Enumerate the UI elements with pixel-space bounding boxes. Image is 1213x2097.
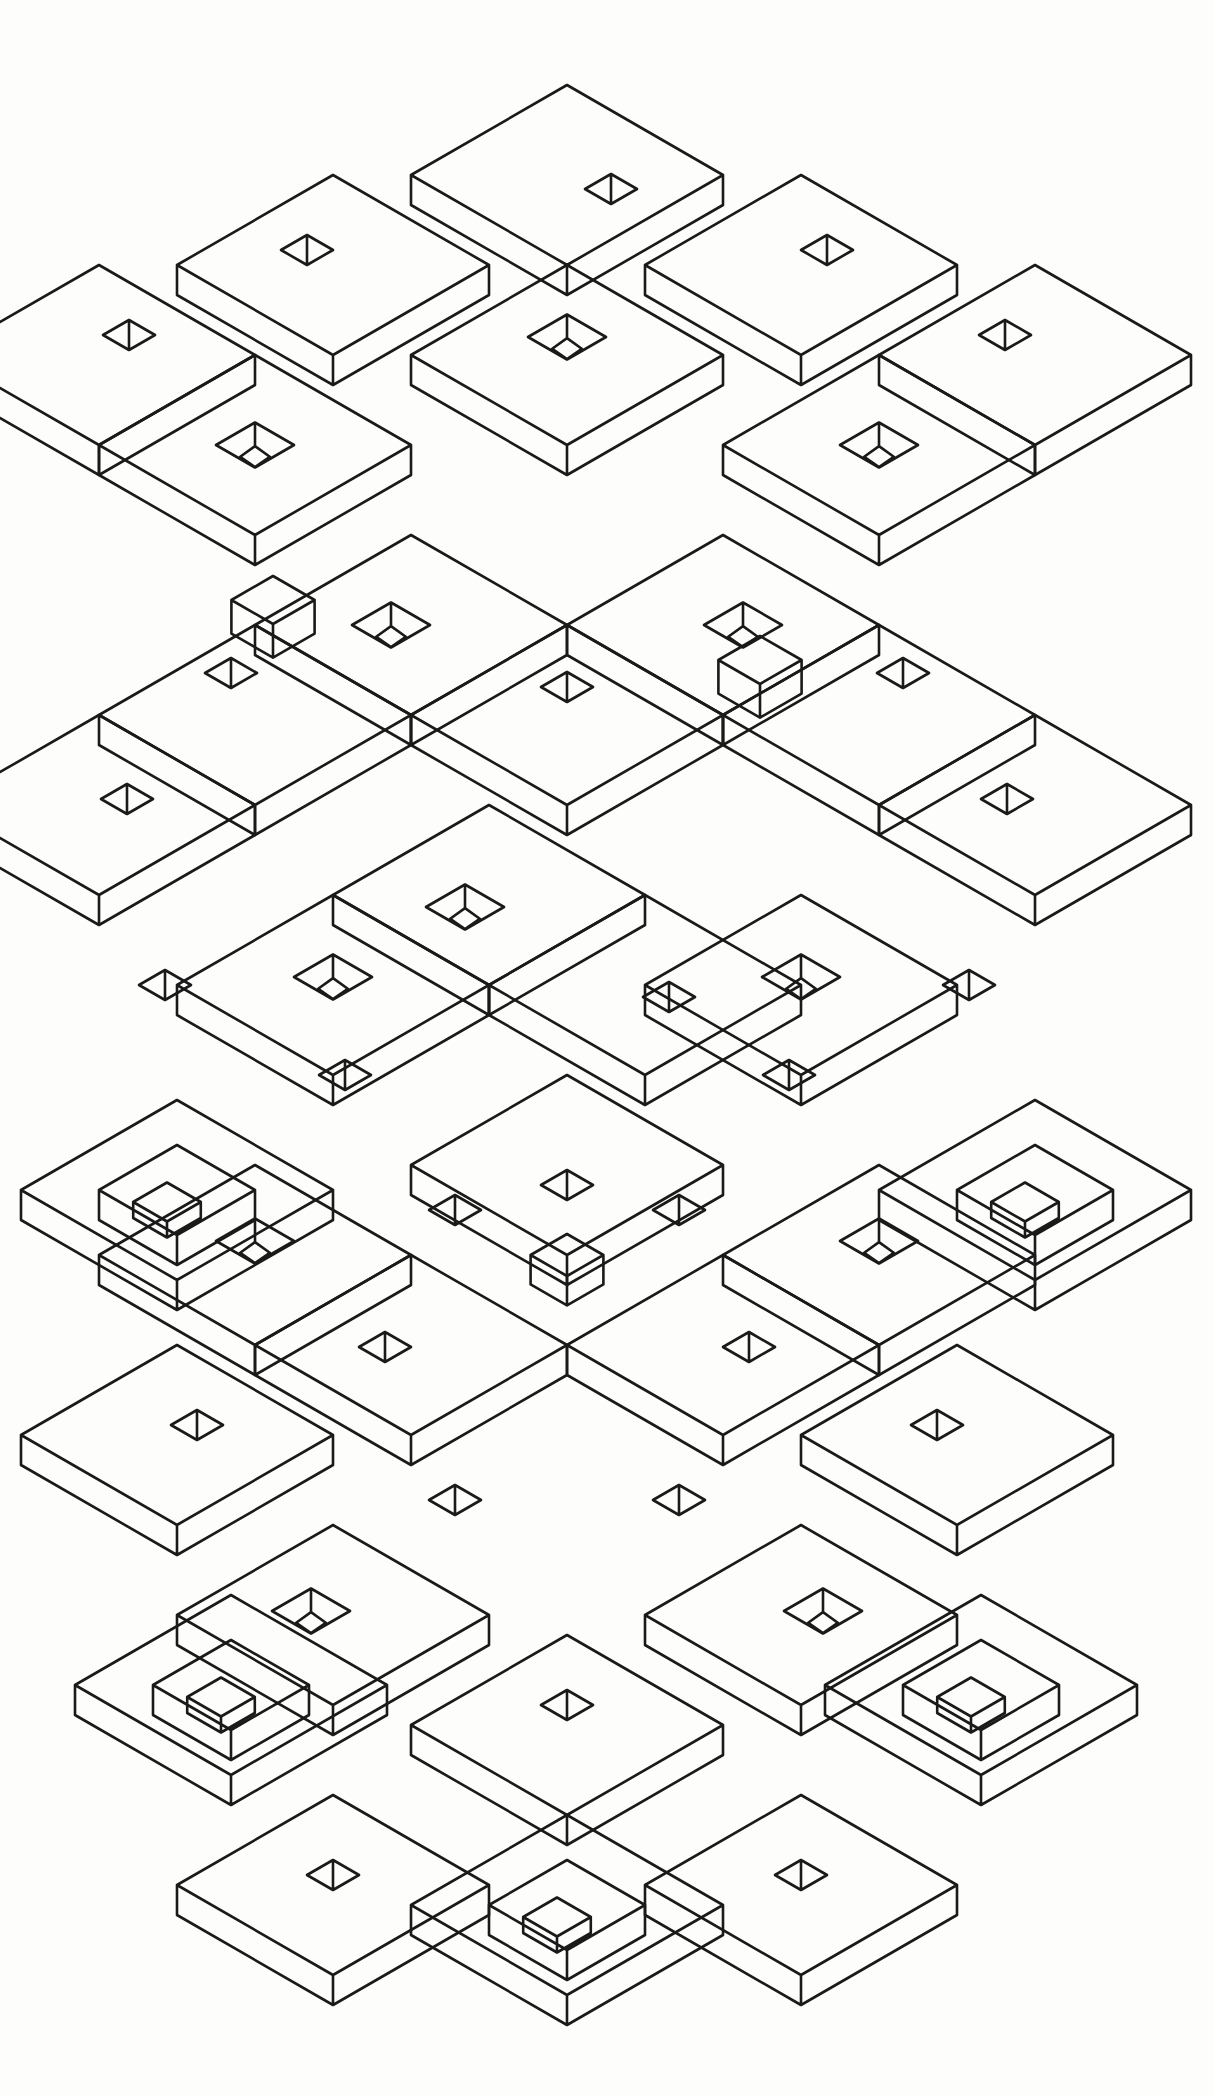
floating-hole [763, 1060, 815, 1090]
floating-hole [139, 970, 191, 1000]
floating-hole [429, 1485, 481, 1515]
plate-slab [645, 1795, 957, 2005]
floating-hole [319, 1060, 371, 1090]
plate-slab [21, 1345, 333, 1555]
ring-frame [879, 1100, 1191, 1310]
plate-slab [879, 265, 1191, 475]
plate-slab [645, 175, 957, 385]
plate-slab [645, 1525, 957, 1735]
cube [231, 576, 314, 658]
ring-frame [21, 1100, 333, 1310]
ring-frame [825, 1595, 1137, 1805]
plate-slab [0, 715, 255, 925]
pattern-layer [0, 85, 1191, 2025]
plate-slab [801, 1345, 1113, 1555]
ring-frame [411, 1815, 723, 2025]
plate-slab [177, 175, 489, 385]
plate-slab [411, 1075, 723, 1285]
op-art-page [0, 0, 1213, 2097]
plate-slab [177, 1525, 489, 1735]
isometric-pattern-svg [0, 0, 1213, 2097]
plate-slab [411, 85, 723, 295]
plate-slab [411, 1635, 723, 1845]
plate-slab [177, 1795, 489, 2005]
floating-hole [653, 1485, 705, 1515]
plate-slab [411, 265, 723, 475]
floating-hole [943, 970, 995, 1000]
